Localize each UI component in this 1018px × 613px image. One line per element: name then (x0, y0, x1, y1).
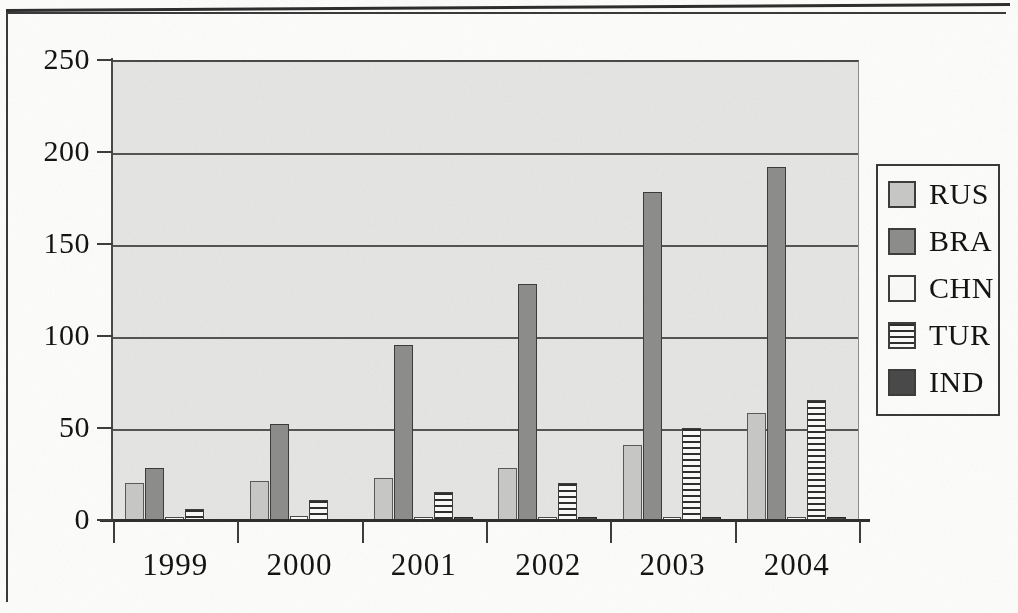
x-tick-label-2003: 2003 (611, 548, 735, 582)
legend-item-CHN[interactable]: CHN (888, 268, 994, 308)
legend-label-RUS: RUS (929, 179, 989, 209)
y-tick-label-200: 200 (18, 136, 90, 166)
x-tick-label-1999: 1999 (113, 548, 237, 582)
bar-RUS-1999 (125, 483, 144, 520)
legend-item-BRA[interactable]: BRA (888, 221, 994, 261)
legend-swatch-TUR-icon (888, 322, 916, 349)
x-tick-3 (486, 521, 488, 543)
x-tick-label-2001: 2001 (362, 548, 486, 582)
bar-RUS-2003 (623, 445, 642, 520)
legend-swatch-CHN-icon (888, 275, 916, 302)
x-tick-0 (113, 521, 115, 543)
legend-item-TUR[interactable]: TUR (888, 315, 994, 355)
grouped-bar-chart: 050100150200250 199920002001200220032004… (0, 0, 1018, 613)
x-tick-1 (237, 521, 239, 543)
bar-group-2004 (735, 62, 859, 520)
legend-label-BRA: BRA (929, 226, 992, 256)
x-tick-6 (859, 521, 861, 543)
bar-group-2000 (237, 62, 361, 520)
scanned-chart-page: 050100150200250 199920002001200220032004… (0, 0, 1018, 613)
y-tick-100 (97, 335, 113, 337)
bar-BRA-2004 (767, 167, 786, 520)
y-tick-label-0: 0 (18, 504, 90, 534)
bar-group-2001 (362, 62, 486, 520)
y-tick-label-100: 100 (18, 320, 90, 350)
legend-label-TUR: TUR (929, 320, 991, 350)
bar-RUS-2002 (498, 468, 517, 520)
y-tick-0 (97, 519, 113, 521)
y-tick-150 (97, 243, 113, 245)
y-tick-200 (97, 151, 113, 153)
y-tick-label-150: 150 (18, 228, 90, 258)
y-tick-label-50: 50 (18, 412, 90, 442)
bar-TUR-2001 (434, 492, 453, 520)
legend-label-IND: IND (929, 367, 984, 397)
bar-BRA-1999 (145, 468, 164, 520)
bar-BRA-2000 (270, 424, 289, 520)
y-axis-line (111, 58, 113, 522)
x-tick-label-2004: 2004 (735, 548, 859, 582)
bar-BRA-2003 (643, 192, 662, 520)
bar-BRA-2001 (394, 345, 413, 520)
x-tick-5 (735, 521, 737, 543)
x-axis-line (100, 519, 870, 522)
bar-TUR-2000 (309, 500, 328, 520)
plot-area (113, 60, 859, 520)
x-tick-label-2000: 2000 (238, 548, 362, 582)
bar-RUS-2000 (250, 481, 269, 520)
x-tick-2 (362, 521, 364, 543)
legend-item-RUS[interactable]: RUS (888, 174, 994, 214)
legend-swatch-RUS-icon (888, 181, 916, 208)
bar-RUS-2001 (374, 478, 393, 520)
legend-label-CHN: CHN (929, 273, 994, 303)
bar-TUR-2002 (558, 483, 577, 520)
legend-swatch-IND-icon (888, 369, 916, 396)
bar-group-2002 (486, 62, 610, 520)
chart-legend: RUSBRACHNTURIND (876, 164, 1000, 416)
bar-BRA-2002 (518, 284, 537, 520)
y-tick-250 (97, 59, 113, 61)
legend-item-IND[interactable]: IND (888, 362, 994, 402)
x-tick-4 (610, 521, 612, 543)
x-tick-label-2002: 2002 (486, 548, 610, 582)
y-tick-50 (97, 427, 113, 429)
bar-RUS-2004 (747, 413, 766, 520)
bar-TUR-2003 (682, 428, 701, 520)
bar-group-1999 (113, 62, 237, 520)
y-tick-label-250: 250 (18, 44, 90, 74)
legend-swatch-BRA-icon (888, 228, 916, 255)
bar-group-2003 (610, 62, 734, 520)
bar-TUR-2004 (807, 400, 826, 520)
